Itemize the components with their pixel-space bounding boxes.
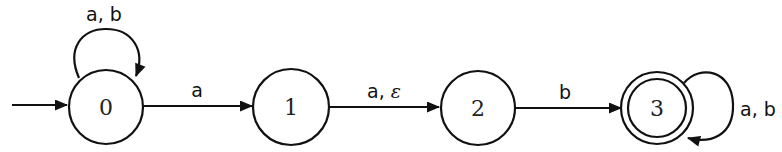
transition-0-0: a, b <box>74 3 139 78</box>
transition-label: a <box>191 79 203 101</box>
transition-2-3: b <box>516 81 621 108</box>
transition-label: a, b <box>740 98 776 120</box>
state-1: 1 <box>253 69 329 145</box>
epsilon-symbol: ε <box>391 80 401 102</box>
transition-label: a, b <box>86 3 122 25</box>
state-label: 2 <box>471 96 485 121</box>
transition-1-2: a, ε <box>330 80 439 107</box>
state-0: 0 <box>69 70 143 144</box>
diagram-canvas: a, b a a, ε b a, b 0 1 <box>0 0 782 152</box>
transition-label: a, ε <box>367 80 401 102</box>
transition-label: b <box>559 81 571 103</box>
transition-3-3: a, b <box>684 72 776 140</box>
state-label: 0 <box>99 95 113 120</box>
transition-0-1: a <box>143 79 252 106</box>
state-diagram: a, b a a, ε b a, b 0 1 <box>0 0 782 152</box>
label-prefix: a, <box>367 80 391 102</box>
state-2: 2 <box>441 71 515 145</box>
state-label: 3 <box>650 96 664 121</box>
state-label: 1 <box>284 95 298 120</box>
state-3-accepting: 3 <box>621 72 693 144</box>
